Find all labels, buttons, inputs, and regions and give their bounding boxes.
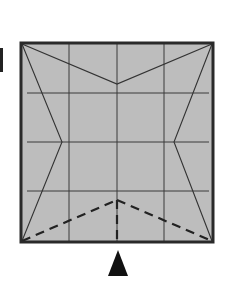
origami-diagram xyxy=(0,0,231,292)
turn-over-arrow-icon xyxy=(108,250,128,276)
edge-mark xyxy=(0,48,3,72)
